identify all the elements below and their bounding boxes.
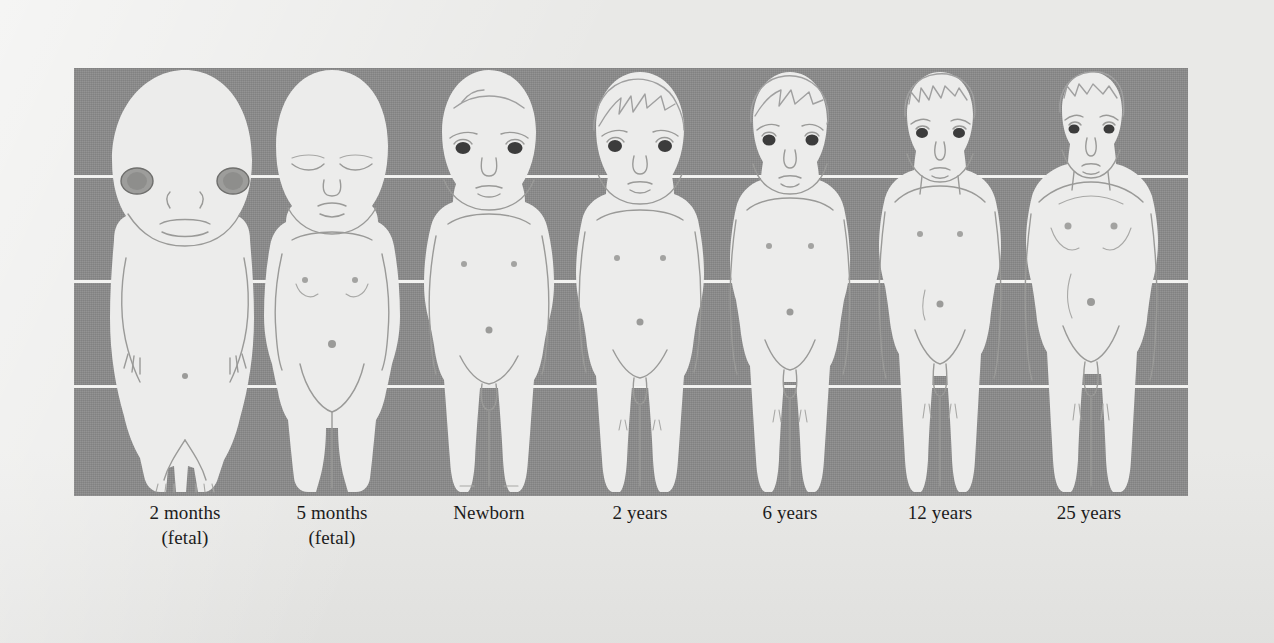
figure-newborn xyxy=(414,68,564,496)
figure-2-years xyxy=(565,68,715,496)
illustration-panel xyxy=(74,68,1188,496)
growth-proportions-figure: 2 months (fetal) 5 months (fetal) Newbor… xyxy=(0,0,1274,643)
figure-fetal-5-months xyxy=(252,68,412,496)
label-12-years: 12 years xyxy=(908,500,973,525)
label-25-years: 25 years xyxy=(1057,500,1122,525)
label-main: 2 months xyxy=(149,502,220,523)
label-sub: (fetal) xyxy=(296,525,367,550)
label-fetal-5-months: 5 months (fetal) xyxy=(296,500,367,550)
label-sub: (fetal) xyxy=(149,525,220,550)
label-main: 2 years xyxy=(612,502,667,523)
label-fetal-2-months: 2 months (fetal) xyxy=(149,500,220,550)
label-6-years: 6 years xyxy=(762,500,817,525)
label-main: 12 years xyxy=(908,502,973,523)
figure-25-years xyxy=(1015,68,1167,496)
label-main: 5 months xyxy=(296,502,367,523)
label-main: Newborn xyxy=(453,502,524,523)
label-newborn: Newborn xyxy=(453,500,524,525)
figure-6-years xyxy=(717,68,863,496)
figure-12-years xyxy=(867,68,1013,496)
label-main: 25 years xyxy=(1057,502,1122,523)
label-2-years: 2 years xyxy=(612,500,667,525)
label-main: 6 years xyxy=(762,502,817,523)
age-labels: 2 months (fetal) 5 months (fetal) Newbor… xyxy=(0,500,1274,570)
